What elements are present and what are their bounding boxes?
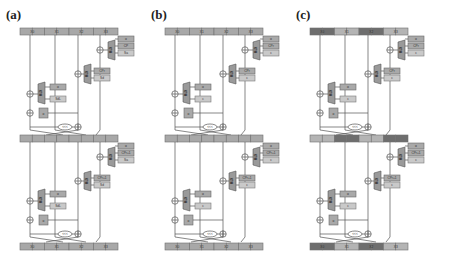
alpha-box-label: α [43,112,45,116]
xor-icon [75,178,81,184]
bar-cell [32,135,44,142]
mux-block: MUX [38,189,45,211]
input-box-label: CPr [99,69,105,73]
mux-label: MUX [230,71,234,78]
cross-wire [46,237,78,242]
mux-label: MUX [109,154,113,161]
input-box-label: α [347,192,349,196]
xor-icon [365,178,371,184]
rotate-label: <<< [352,232,358,236]
mux-block: MUX [229,171,236,191]
bar-label: X3 [394,30,398,34]
input-box-label: Sd [100,183,104,187]
xor-icon [317,91,323,97]
xor-icon [365,71,371,77]
round-lower: MUXαCPr+1cMUXCPr+1cMUXαcα<<< [317,142,424,242]
bar-label: X2 [369,30,373,34]
bar-label: X2 [224,245,228,249]
input-box-label: Sd [100,76,104,80]
mux-label: MUX [85,71,89,78]
mux-block: MUX [183,189,190,211]
bar-label: X1 [345,245,349,249]
mux-label: MUX [254,47,258,54]
panel-label: (c) [296,7,310,22]
xor-icon [317,198,323,204]
xor-icon [172,198,178,204]
mux-block: MUX [84,64,91,84]
xor-icon [27,110,33,116]
state-bar-bottom: X0X1X2X3 [310,243,408,250]
mux-label: MUX [375,178,379,185]
xor-icon [317,110,323,116]
bar-cell [202,135,214,142]
bar-label: X2 [224,30,228,34]
panel-label: (b) [151,7,167,22]
input-box-label: SdL [55,97,61,101]
mux-block: MUX [108,147,115,167]
bar-cell [226,135,238,142]
bar-cell [190,135,202,142]
input-box-label: Sa [124,158,128,162]
xor-icon [172,91,178,97]
mux-block: MUX [398,147,405,167]
panel-c: (c)X0X1X2X3MUXαCPrcMUXCPrcMUXαcα<<<MUXαC… [296,7,424,250]
panel-label: (a) [6,7,21,22]
input-box-label: α [270,37,272,41]
diagram-canvas: (a)X0X1X2X3MUXαCPSaMUXCPrSdMUXαSdLα<<<MU… [0,0,456,261]
input-box-label: α [202,192,204,196]
mux-block: MUX [253,40,260,60]
round-upper: MUXαCPrcMUXCPrcMUXαcα<<< [317,35,424,135]
xor-icon [387,154,393,160]
cross-wire [46,130,78,135]
mux-label: MUX [184,90,188,97]
rotate-label: <<< [62,125,68,129]
bar-cell [45,135,57,142]
mux-label: MUX [399,47,403,54]
input-box-label: CPr+1 [121,151,130,155]
bar-label: X2 [79,30,83,34]
input-box-label: α [347,85,349,89]
xor-icon [242,47,248,53]
input-box-label: CPr+1 [411,151,420,155]
input-box-label: CPr+1 [97,176,106,180]
bar-label: X3 [249,30,253,34]
input-box-label: α [415,144,417,148]
bar-cell [165,135,177,142]
alpha-box-label: α [43,219,45,223]
mux-label: MUX [39,197,43,204]
xor-icon [27,198,33,204]
bar-label: X1 [200,245,204,249]
bar-cell [347,135,359,142]
bar-cell [384,135,396,142]
bar-cell [81,135,93,142]
rotate-label: <<< [207,232,213,236]
mux-label: MUX [39,90,43,97]
rotate-label: <<< [207,125,213,129]
mux-block: MUX [183,82,190,104]
state-bar-middle [20,135,118,142]
input-box-label: α [57,85,59,89]
mux-label: MUX [329,90,333,97]
bar-cell [396,135,408,142]
bar-label: X2 [79,245,83,249]
cross-wire [336,130,368,135]
state-bar-top: X0X1X2X3 [165,28,263,35]
state-bar-top: X0X1X2X3 [310,28,408,35]
bar-cell [106,135,118,142]
mux-block: MUX [108,40,115,60]
bar-cell [94,135,106,142]
cross-wire [386,237,390,242]
xor-icon [172,110,178,116]
cross-wire [96,130,100,135]
rotate-label: <<< [62,232,68,236]
mux-block: MUX [374,64,381,84]
alpha-box-label: α [188,112,190,116]
alpha-box-label: α [333,219,335,223]
mux-label: MUX [230,178,234,185]
alpha-box-label: α [188,219,190,223]
input-box-label: CP [124,44,128,48]
cross-wire [241,130,245,135]
mux-label: MUX [109,47,113,54]
bar-label: X3 [104,30,108,34]
input-box-label: CPr [244,69,250,73]
